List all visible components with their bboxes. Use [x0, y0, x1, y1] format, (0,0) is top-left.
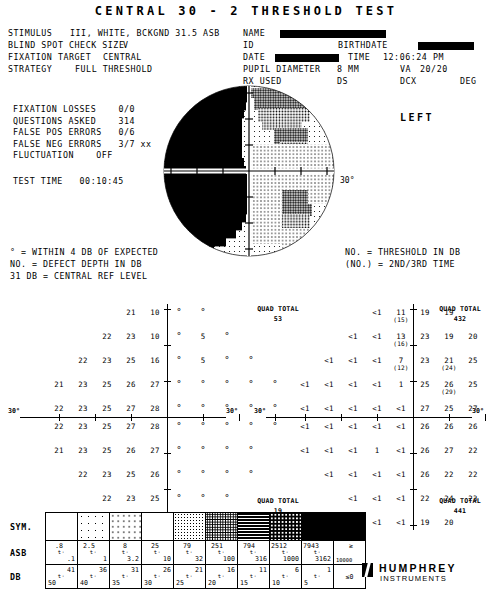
grid-value: 23	[78, 380, 87, 389]
axis-tick	[164, 309, 171, 310]
header-row-blind-spot: BLIND SPOT CHECK SIZE V ID BIRTHDATE	[8, 40, 486, 52]
test-time-label: TEST TIME	[13, 176, 63, 186]
swatch-fill	[46, 513, 77, 540]
grid-value: 10	[150, 308, 159, 317]
time-label: TIME	[348, 52, 370, 62]
swatch-fill	[302, 513, 333, 540]
header-row-stimulus: STIMULUS III, WHITE, BCKGND 31.5 ASB NAM…	[8, 28, 486, 40]
db-lower: 40	[80, 579, 88, 587]
grid-value: <1	[300, 404, 309, 413]
map-degree-label-left: 30°	[168, 176, 182, 185]
swatch-fill	[334, 513, 365, 540]
db-lower: 25	[176, 579, 184, 587]
axis-tick	[239, 414, 240, 421]
grid-value: 25	[126, 356, 135, 365]
asb-lower: 1	[103, 555, 107, 563]
db-cell-9: ≤0	[334, 565, 366, 589]
logo-brand-name: HUMPHREY	[379, 562, 457, 574]
grid-value: <1	[372, 518, 381, 527]
grid-value: °	[200, 307, 206, 317]
grid-value: 25	[102, 422, 111, 431]
grid-retest-value: (16)	[393, 340, 408, 347]
grid-value: <1	[300, 446, 309, 455]
grid-value: <1	[348, 494, 357, 503]
db-lower: 5	[304, 579, 308, 587]
grid-value: °	[200, 379, 206, 389]
fixation-losses-row: FIXATION LOSSES 0/0	[13, 104, 152, 116]
fixation-losses-value: 0/0	[118, 104, 135, 114]
grid-value: 22	[468, 470, 477, 479]
grid-value: 22	[102, 494, 111, 503]
header-row-fixation-target: FIXATION TARGET CENTRAL DATE TIME 12:06:…	[8, 52, 486, 64]
db-cell-5: 16t·20	[206, 565, 238, 589]
symbol-swatch-9	[334, 513, 366, 541]
db-lower: 35	[112, 579, 120, 587]
grid-value: 25	[468, 380, 477, 389]
grid-value: <1	[396, 446, 405, 455]
grid-value: 10	[150, 332, 159, 341]
quad-total-value: 441	[439, 506, 481, 516]
grid-value: <1	[372, 332, 381, 341]
grid-value: 5	[201, 332, 206, 341]
grid-degree-label-left: 30°	[254, 407, 266, 415]
axis-tick	[131, 414, 132, 421]
grid-value: 26	[420, 422, 429, 431]
grid-value: 25	[102, 404, 111, 413]
db-cell-0: 41t·50	[46, 565, 78, 589]
grid-value: °	[224, 469, 230, 479]
grid-value: 22	[54, 422, 63, 431]
asb-cell-2: 8t·3.2	[110, 541, 142, 565]
false-pos-value: 0/6	[118, 127, 135, 137]
grid-value: 28	[150, 404, 159, 413]
grid-degree-label-left: 30°	[8, 407, 20, 415]
axis-tick	[59, 414, 60, 421]
grid-value: 23	[78, 404, 87, 413]
db-cell-2: 31t·35	[110, 565, 142, 589]
grid-value: 23	[78, 446, 87, 455]
grid-value: °	[224, 445, 230, 455]
axis-tick	[203, 414, 204, 421]
axis-tick	[164, 345, 171, 346]
false-neg-row: FALSE NEG ERRORS 3/7 xx	[13, 139, 152, 151]
grid-value: 26	[420, 446, 429, 455]
grid-value: 22	[78, 470, 87, 479]
grid-value: <1	[348, 470, 357, 479]
axis-tick	[410, 525, 417, 526]
db-lower: 20	[208, 579, 216, 587]
grid-value: °	[176, 469, 182, 479]
grid-value: 26	[468, 422, 477, 431]
grid-value: <1	[372, 308, 381, 317]
grid-value: 25	[102, 380, 111, 389]
key-left: ° = WITHIN 4 DB OF EXPECTED NO. = DEFECT…	[10, 246, 158, 282]
grid-value: 26	[126, 446, 135, 455]
grid-value: 20	[468, 332, 477, 341]
grid-value: <1	[372, 422, 381, 431]
grid-value: 20	[444, 518, 453, 527]
grid-retest-value: (24)	[441, 364, 456, 371]
db-cell-7: 6t·10	[270, 565, 302, 589]
grid-value: °	[176, 421, 182, 431]
questions-asked-value: 314	[118, 116, 135, 126]
swatch-fill	[270, 513, 301, 540]
grid-value: <1	[348, 404, 357, 413]
grid-value: °	[200, 421, 206, 431]
grid-value: °	[200, 469, 206, 479]
grid-value: <1	[324, 356, 333, 365]
asb-lower: 316	[255, 555, 267, 563]
birthdate-value-redacted	[418, 41, 474, 51]
date-value-redacted	[275, 53, 339, 63]
axis-tick	[341, 414, 342, 421]
grid-value: <1	[324, 470, 333, 479]
asb-cell-6: 794t·316	[238, 541, 270, 565]
asb-row-label: ASB	[10, 541, 46, 565]
grid-value: 27	[420, 404, 429, 413]
grid-value: °	[200, 493, 206, 503]
grid-value: 27	[444, 446, 453, 455]
eye-side-label: LEFT	[400, 112, 434, 123]
grid-value: 19	[444, 332, 453, 341]
grid-value: 25	[468, 356, 477, 365]
asb-lower: .1	[67, 555, 75, 563]
quad-total-value: 432	[439, 314, 481, 324]
asb-cell-3: 25t·10	[142, 541, 174, 565]
grid-value: 26	[150, 470, 159, 479]
